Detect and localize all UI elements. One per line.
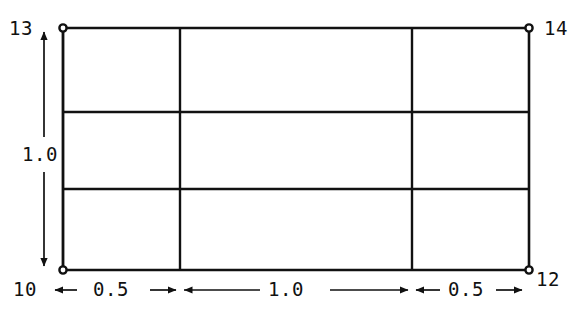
node-label-13: 13 [9, 19, 33, 38]
node-marker-10 [59, 266, 66, 273]
node-label-14: 14 [544, 19, 568, 38]
dimension-label-bottom-center: 1.0 [268, 280, 304, 299]
node-marker-14 [525, 24, 532, 31]
node-label-10: 10 [13, 280, 37, 299]
dimension-label-bottom-left: 0.5 [93, 280, 129, 299]
node-marker-13 [59, 24, 66, 31]
node-label-12: 12 [536, 270, 560, 289]
mesh-dimension-diagram: 13 14 10 12 1.0 0.5 1.0 0.5 [0, 0, 582, 309]
node-marker-12 [525, 266, 532, 273]
dimension-label-vertical: 1.0 [22, 145, 58, 164]
mesh-node-markers [59, 24, 532, 273]
mesh-outline [63, 28, 529, 270]
diagram-canvas [0, 0, 582, 309]
dimension-label-bottom-right: 0.5 [448, 280, 484, 299]
mesh-interior-lines [63, 28, 529, 270]
